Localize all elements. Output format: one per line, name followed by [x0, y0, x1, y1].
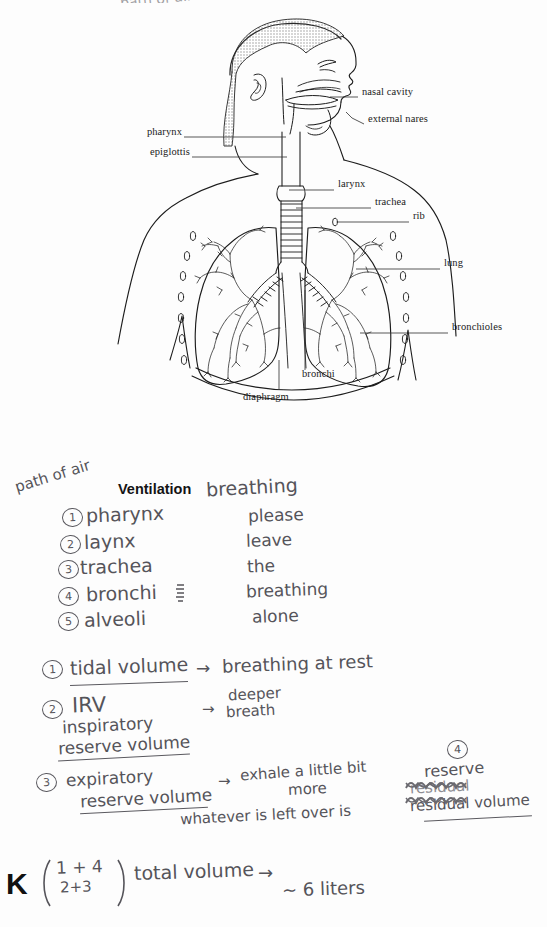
scribble-over-residual-2 [404, 790, 476, 810]
mnemonic-word-5: alone [252, 605, 299, 627]
volume-bullet-4: 4 [447, 739, 469, 759]
list-item-pharynx: pharynx [86, 502, 165, 527]
diagram-label-pharynx: pharynx [82, 126, 182, 137]
volume-term-erv-line1: expiratory [66, 766, 154, 791]
total-volume-value: ~ 6 liters [282, 877, 366, 901]
note-path-of-air: path of air [13, 456, 92, 496]
diagram-label-nasal-cavity: nasal cavity [362, 86, 413, 97]
mnemonic-word-3: the [247, 556, 276, 577]
diagram-label-diaphragm: diaphragm [243, 391, 289, 402]
diagram-label-bronchi: bronchi [302, 368, 335, 379]
volume-def-tidal-volume: breathing at rest [222, 650, 374, 676]
volume-def-erv-line3: whatever is left over is [180, 802, 352, 829]
diagram-label-epiglottis: epiglottis [82, 146, 190, 157]
arrow-irv: → [202, 700, 215, 718]
volume-bullet-3: 3 [36, 772, 58, 792]
diagram-artwork [0, 0, 547, 440]
total-denominator: 2+3 [60, 877, 92, 896]
arrow-tidal-volume: → [196, 658, 210, 678]
underline-residual-volume [424, 815, 532, 822]
mnemonic-word-2: leave [246, 529, 293, 551]
volume-term-tidal-volume: tidal volume [70, 653, 189, 679]
underline-tidal-volume [70, 681, 188, 686]
list-item-bronchi: bronchi [86, 581, 158, 605]
arrow-erv: → [218, 772, 231, 790]
respiratory-system-diagram: nasal cavity external nares larynx trach… [0, 0, 547, 440]
volume-term-irv-abbr: IRV [72, 692, 107, 717]
list-item-alveoli: alveoli [84, 607, 147, 631]
list-bullet-5: 5 [58, 611, 80, 631]
volume-bullet-1: 1 [42, 659, 64, 679]
mnemonic-word-1: please [248, 504, 304, 526]
list-bullet-2: 2 [60, 534, 82, 554]
list-item-trachea: trachea [80, 554, 153, 579]
k-logo: K [6, 867, 26, 901]
diagram-label-trachea: trachea [375, 196, 406, 207]
volume-def-erv-line2: more [288, 779, 328, 799]
mnemonic-word-4: breathing [246, 579, 329, 602]
list-item-laynx: laynx [84, 529, 136, 553]
heading-breathing: breathing [205, 474, 298, 501]
arrow-total-volume: → [258, 862, 273, 883]
notebook-page: nasal cavity external nares larynx trach… [0, 0, 547, 927]
list-bullet-4: 4 [58, 586, 80, 606]
volume-def-irv-line2: breath [226, 701, 276, 722]
total-volume-label: total volume [134, 858, 255, 884]
total-numerator: 1 + 4 [56, 856, 103, 878]
heading-ventilation: Ventilation [118, 481, 191, 497]
diagram-label-larynx: larynx [338, 178, 365, 189]
diagram-label-bronchioles: bronchioles [452, 321, 502, 332]
diagram-label-rib: rib [413, 210, 425, 221]
top-cut-handwriting: path of air [120, 0, 380, 3]
scribble-mark-bronchi [174, 582, 188, 604]
diagram-label-external-nares: external nares [368, 113, 428, 124]
diagram-label-lung: lung [444, 257, 463, 268]
list-bullet-1: 1 [62, 507, 84, 527]
list-bullet-3: 3 [58, 559, 80, 579]
volume-bullet-2: 2 [42, 699, 64, 719]
